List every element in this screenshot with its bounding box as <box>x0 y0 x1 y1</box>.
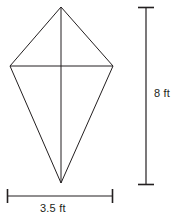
width-dimension-line <box>7 189 113 203</box>
kite-diagram-svg <box>0 0 175 217</box>
height-dimension-label: 8 ft <box>154 87 170 99</box>
diagram-canvas: 8 ft 3.5 ft <box>0 0 175 217</box>
width-dimension-label: 3.5 ft <box>40 202 66 214</box>
height-dimension-line <box>138 7 154 185</box>
